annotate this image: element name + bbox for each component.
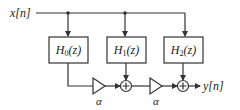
output-label: y[n]: [202, 79, 224, 93]
svg-text:α: α: [153, 95, 159, 107]
adder-1: [121, 81, 132, 92]
gain-triangle-2: α: [150, 78, 162, 107]
gain-triangle-1: α: [93, 78, 105, 107]
svg-text:H0(z): H0(z): [55, 43, 81, 58]
svg-text:H1(z): H1(z): [113, 43, 139, 58]
adder-2: [178, 81, 189, 92]
filter-block-h0: H0(z): [49, 37, 88, 63]
block-diagram: x[n] H0(z) H1(z) H2(z) α: [0, 0, 240, 110]
filter-block-h1: H1(z): [107, 37, 146, 63]
input-label: x[n]: [9, 6, 31, 20]
h0-output-line: [68, 63, 93, 86]
svg-text:H2(z): H2(z): [170, 43, 196, 58]
svg-text:α: α: [96, 95, 102, 107]
filter-block-h2: H2(z): [164, 37, 203, 63]
